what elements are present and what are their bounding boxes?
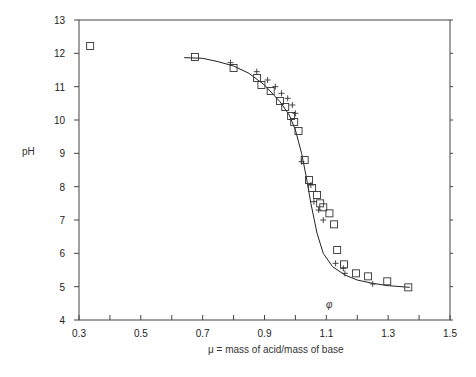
plus-marker [272, 84, 278, 90]
plus-marker [340, 265, 346, 271]
plus-marker [370, 281, 376, 287]
plus-marker [289, 102, 295, 108]
plus-marker [316, 207, 322, 213]
y-tick-label: 9 [59, 148, 65, 159]
square-marker [87, 43, 94, 50]
plot-frame [79, 20, 450, 320]
y-tick-label: 13 [54, 15, 66, 26]
phi-annotation: φ [326, 299, 333, 310]
square-marker [340, 261, 347, 268]
square-marker [309, 185, 316, 192]
plus-marker [279, 90, 285, 96]
x-tick-label: 0.9 [258, 328, 272, 339]
fit-curve [184, 58, 410, 288]
plus-marker [254, 69, 260, 75]
square-marker [334, 247, 341, 254]
plus-marker [333, 260, 339, 266]
x-tick-label: 1.5 [443, 328, 457, 339]
titration-chart: 45678910111213 0.30.50.70.91.11.31.5 pH … [0, 0, 476, 377]
plus-marker [285, 95, 291, 101]
y-tick-label: 12 [54, 48, 66, 59]
square-marker [384, 278, 391, 285]
x-tick-label: 0.3 [72, 328, 86, 339]
square-marker [191, 54, 198, 61]
y-axis: 45678910111213 [54, 15, 453, 326]
square-marker [365, 273, 372, 280]
plus-marker [292, 110, 298, 116]
x-tick-label: 0.5 [134, 328, 148, 339]
y-tick-label: 4 [59, 315, 65, 326]
x-tick-label: 0.7 [196, 328, 210, 339]
data-markers [87, 43, 412, 291]
y-tick-label: 8 [59, 182, 65, 193]
plus-marker [311, 199, 317, 205]
y-tick-label: 7 [59, 215, 65, 226]
x-axis: 0.30.50.70.91.11.31.5 [72, 315, 457, 339]
x-tick-label: 1.1 [319, 328, 333, 339]
plus-marker [265, 77, 271, 83]
plus-marker [320, 217, 326, 223]
x-axis-label: μ = mass of acid/mass of base [208, 344, 344, 355]
y-axis-label: pH [22, 146, 35, 157]
square-marker [331, 221, 338, 228]
square-marker [314, 192, 321, 199]
y-tick-label: 11 [55, 82, 66, 93]
square-marker [353, 270, 360, 277]
y-tick-label: 10 [54, 115, 66, 126]
x-tick-label: 1.3 [381, 328, 395, 339]
y-tick-label: 5 [59, 282, 65, 293]
y-tick-label: 6 [59, 248, 65, 259]
